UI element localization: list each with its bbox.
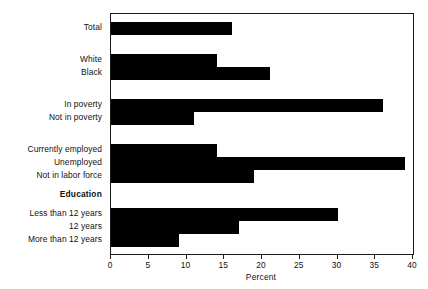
axis-tick-label: 5 <box>136 260 160 270</box>
axis-tick <box>299 254 300 259</box>
bar <box>111 67 270 80</box>
axis-tick-label: 15 <box>211 260 235 270</box>
bar <box>111 157 405 170</box>
axis-tick <box>261 254 262 259</box>
bar <box>111 208 338 221</box>
category-label: Not in labor force <box>0 171 106 180</box>
bars-container <box>111 14 413 254</box>
bar <box>111 22 232 35</box>
axis-tick-label: 0 <box>98 260 122 270</box>
category-label: In poverty <box>0 100 106 109</box>
x-axis-label: Percent <box>110 272 412 282</box>
bar-chart: TotalWhiteBlackIn povertyNot in povertyC… <box>0 0 428 289</box>
axis-tick-label: 35 <box>362 260 386 270</box>
bar <box>111 170 254 183</box>
category-label: Black <box>0 68 106 77</box>
plot-area <box>110 13 414 255</box>
category-label: 12 years <box>0 222 106 231</box>
category-label: Not in poverty <box>0 113 106 122</box>
bar <box>111 54 217 67</box>
category-label: More than 12 years <box>0 235 106 244</box>
group-header-label: Education <box>0 190 106 199</box>
category-label: Currently employed <box>0 145 106 154</box>
axis-tick <box>148 254 149 259</box>
bar <box>111 144 217 157</box>
axis-tick-label: 25 <box>287 260 311 270</box>
axis-tick-label: 40 <box>400 260 424 270</box>
axis-tick-label: 20 <box>249 260 273 270</box>
axis-tick <box>110 254 111 259</box>
category-label: Unemployed <box>0 158 106 167</box>
category-label: Total <box>0 23 106 32</box>
category-labels: TotalWhiteBlackIn povertyNot in povertyC… <box>0 0 106 289</box>
bar <box>111 112 194 125</box>
bar <box>111 99 383 112</box>
axis-tick-label: 10 <box>174 260 198 270</box>
bar <box>111 234 179 247</box>
axis-tick-label: 30 <box>325 260 349 270</box>
axis-tick <box>186 254 187 259</box>
bar <box>111 221 239 234</box>
axis-tick <box>337 254 338 259</box>
axis-tick <box>374 254 375 259</box>
category-label: Less than 12 years <box>0 209 106 218</box>
axis-tick <box>223 254 224 259</box>
axis-tick <box>412 254 413 259</box>
category-label: White <box>0 55 106 64</box>
